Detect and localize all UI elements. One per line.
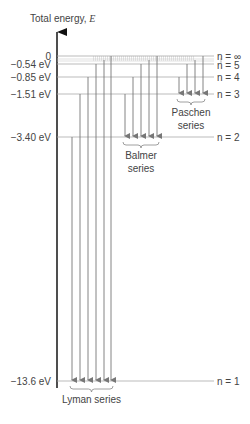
energy-label: −3.40 eV	[11, 132, 52, 143]
level-n-1: −13.6 eVn = 1	[11, 376, 240, 387]
series-name-line2: series	[128, 163, 155, 174]
energy-levels: 0n = ∞−0.54 eVn = 5−0.85 eVn = 4−1.51 eV…	[11, 51, 241, 387]
paschen-series-transitions	[179, 56, 203, 93]
series-labels: Lyman seriesBalmerseriesPaschenseries	[62, 99, 211, 405]
ellipsis-dots	[220, 58, 221, 63]
n-label: n = 2	[217, 132, 240, 143]
series-name: Balmer	[125, 150, 157, 161]
transitions	[72, 56, 203, 380]
n-label: n = 3	[217, 89, 240, 100]
brace	[177, 99, 205, 105]
lyman-series-transitions	[72, 56, 111, 380]
level-n-5: −0.54 eVn = 5	[11, 59, 240, 72]
energy-label: −1.51 eV	[11, 89, 52, 100]
n-label: n = 1	[217, 376, 240, 387]
balmer-series-label: Balmerseries	[123, 142, 159, 174]
series-name: Paschen	[172, 107, 211, 118]
n-label: n = 5	[217, 60, 240, 71]
energy-label: −0.54 eV	[11, 59, 52, 70]
energy-level-diagram: Total energy, E 0n = ∞−0.54 eVn = 5−0.85…	[0, 0, 250, 424]
brace	[123, 142, 159, 148]
brace	[70, 386, 113, 392]
balmer-series-transitions	[125, 56, 157, 136]
level-n-4: −0.85 eVn = 4	[11, 72, 240, 83]
n-label: n = 4	[217, 72, 240, 83]
energy-label: −13.6 eV	[11, 376, 52, 387]
lyman-series-label: Lyman series	[62, 386, 121, 405]
paschen-series-label: Paschenseries	[172, 99, 211, 131]
series-name: Lyman series	[62, 394, 121, 405]
series-name-line2: series	[178, 120, 205, 131]
axis-title: Total energy, E	[30, 13, 95, 24]
energy-label: −0.85 eV	[11, 72, 52, 83]
continuum-band	[93, 57, 195, 61]
